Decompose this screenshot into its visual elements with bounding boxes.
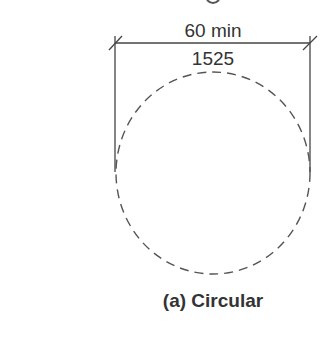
figure-caption: (a) Circular: [163, 290, 264, 311]
circular-turning-space-diagram: 60 min 1525 (a) Circular: [0, 0, 333, 340]
turning-circle: [116, 72, 310, 274]
dimension-imperial-label: 60 min: [184, 20, 241, 41]
dimension-metric-label: 1525: [192, 48, 234, 69]
cropped-title-glyph: [207, 0, 219, 3]
